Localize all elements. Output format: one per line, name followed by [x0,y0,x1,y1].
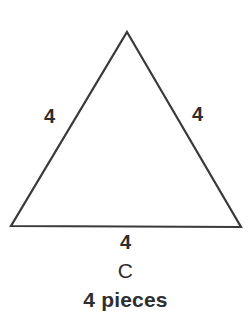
pieces-count-label: 4 pieces [0,289,251,310]
geometry-figure: 4 4 4 C 4 pieces [0,0,251,315]
shape-letter-label: C [0,260,251,281]
right-side-length-label: 4 [192,104,203,124]
triangle-outline [11,32,241,227]
base-side-length-label: 4 [0,232,251,252]
left-side-length-label: 4 [44,106,55,126]
